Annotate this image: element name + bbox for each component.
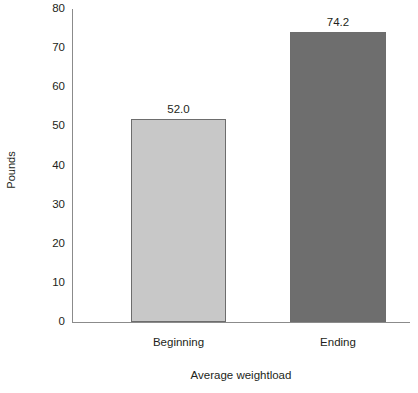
- y-axis-tick-label: 80: [36, 3, 65, 15]
- y-axis-title: Pounds: [0, 130, 22, 210]
- bar-value-label: 74.2: [290, 16, 386, 28]
- y-axis-title-text: Pounds: [5, 151, 17, 188]
- bar: [290, 32, 386, 322]
- y-axis-tick-label: 30: [36, 199, 65, 211]
- y-axis-tick-label: 10: [36, 277, 65, 289]
- x-axis-category-label: Ending: [290, 336, 386, 349]
- plot-area: 52.074.2: [72, 9, 410, 322]
- x-axis-line: [72, 322, 410, 323]
- bar: [131, 119, 226, 322]
- y-axis-tick-label: 60: [36, 81, 65, 93]
- y-axis-tick-label: 40: [36, 160, 65, 172]
- y-axis-tick-label: 50: [36, 120, 65, 132]
- x-axis-title: Average weightload: [72, 369, 410, 381]
- y-axis-tick-label: 20: [36, 238, 65, 250]
- bar-chart: Pounds 01020304050607080 52.074.2 Beginn…: [0, 0, 418, 393]
- x-axis-category-label: Beginning: [131, 336, 226, 349]
- y-axis-tick-labels: 01020304050607080: [36, 0, 65, 393]
- y-axis-tick-label: 0: [36, 316, 65, 328]
- y-axis-tick-label: 70: [36, 42, 65, 54]
- bar-value-label: 52.0: [131, 103, 226, 115]
